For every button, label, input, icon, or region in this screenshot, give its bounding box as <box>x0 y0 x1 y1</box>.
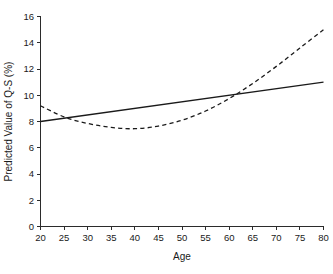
x-tick-label: 30 <box>82 232 93 243</box>
y-tick-label: 12 <box>23 63 34 74</box>
x-tick-label: 75 <box>295 232 306 243</box>
y-tick-label: 8 <box>29 116 34 127</box>
x-axis-tick-labels: 20253035404550556065707580 <box>35 232 329 243</box>
x-tick-label: 50 <box>177 232 188 243</box>
x-axis-title: Age <box>173 251 191 262</box>
x-tick-label: 65 <box>247 232 258 243</box>
y-tick-label: 16 <box>23 11 34 22</box>
x-tick-label: 40 <box>130 232 141 243</box>
y-tick-label: 2 <box>29 195 34 206</box>
x-tick-label: 25 <box>59 232 70 243</box>
x-tick-label: 55 <box>200 232 211 243</box>
x-tick-label: 35 <box>106 232 117 243</box>
series-quadratic-fit-line <box>41 30 324 129</box>
x-tick-label: 45 <box>153 232 164 243</box>
chart-plot-svg: 0246810121416 20253035404550556065707580… <box>0 0 333 274</box>
x-tick-label: 70 <box>271 232 282 243</box>
y-tick-label: 4 <box>29 168 34 179</box>
axes-group <box>41 17 324 227</box>
y-axis-title: Predicted Value of Q-S (%) <box>3 62 14 182</box>
y-axis-tick-labels: 0246810121416 <box>23 11 34 232</box>
y-tick-label: 10 <box>23 90 34 101</box>
y-tick-label: 0 <box>29 221 34 232</box>
x-tick-label: 20 <box>35 232 46 243</box>
x-axis-ticks <box>41 227 324 231</box>
y-tick-label: 6 <box>29 142 34 153</box>
data-series-group <box>41 30 324 129</box>
chart-figure: 0246810121416 20253035404550556065707580… <box>0 0 333 274</box>
x-tick-label: 60 <box>224 232 235 243</box>
x-tick-label: 80 <box>318 232 329 243</box>
y-axis-ticks <box>37 17 41 227</box>
y-tick-label: 14 <box>23 37 34 48</box>
series-linear-fit-line <box>41 82 324 121</box>
